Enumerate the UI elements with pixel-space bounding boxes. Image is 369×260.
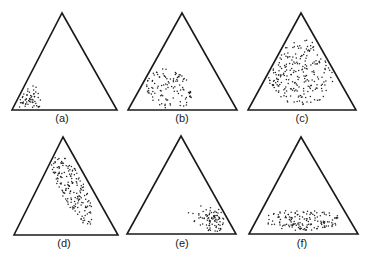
data-point [312,42,314,44]
data-point [75,206,77,208]
data-point [76,192,78,194]
data-point [24,106,26,108]
data-point [72,170,74,172]
data-point [286,47,288,49]
data-point [299,216,301,218]
data-point [70,191,72,193]
data-point [323,222,325,224]
data-point [305,97,307,99]
data-point [323,72,325,74]
panel-label: (c) [296,112,309,124]
data-point [37,97,39,99]
data-point [314,210,316,212]
data-point [289,216,291,218]
panel-e: (e) [127,136,236,249]
data-point [62,190,64,192]
data-point [173,78,175,80]
data-point [304,51,306,53]
data-point [60,176,62,178]
data-point [69,174,71,176]
data-point [200,224,202,226]
data-point [167,99,169,101]
data-point [281,58,283,60]
data-point [54,161,56,163]
data-point [301,96,303,98]
data-point [286,96,288,98]
data-point [62,195,64,197]
data-point [206,216,208,218]
data-point [302,103,304,105]
data-point [186,102,188,104]
data-point [327,221,329,223]
data-point [307,46,309,48]
data-point [314,220,316,222]
data-point [162,73,164,75]
data-point [299,100,301,102]
data-point [323,212,325,214]
data-point [67,167,69,169]
data-point [305,64,307,66]
data-point [178,76,180,78]
data-point [313,49,315,51]
panel-b: (b) [128,13,237,124]
data-point [289,56,291,58]
data-point [53,167,55,169]
data-point [188,212,190,214]
data-point [81,202,83,204]
data-point [296,83,298,85]
data-point [300,95,302,97]
data-point [148,78,150,80]
data-point [167,87,169,89]
data-point [285,66,287,68]
data-point [290,88,292,90]
data-point [176,79,178,81]
data-point [294,216,296,218]
data-point [77,196,79,198]
data-point [273,68,275,70]
data-point [74,197,76,199]
data-point [63,163,65,165]
data-point [272,220,274,222]
data-point [287,52,289,54]
data-point [218,224,220,226]
data-point [310,224,312,226]
data-point [81,216,83,218]
data-point [282,225,284,227]
data-point [284,88,286,90]
data-point [284,53,286,55]
data-point [286,79,288,81]
data-point [317,76,319,78]
data-point [318,99,320,101]
data-point [334,223,336,225]
data-point [296,57,298,59]
data-point [309,218,311,220]
data-point [299,222,301,224]
data-point [304,81,306,83]
data-point [288,214,290,216]
data-point [172,97,174,99]
data-point [38,106,40,108]
data-point [323,96,325,98]
data-point [146,86,148,88]
data-point [278,64,280,66]
data-point [297,223,299,225]
data-point [192,213,194,215]
data-point [74,201,76,203]
data-point [202,211,204,213]
data-point [80,204,82,206]
data-point [25,104,27,106]
data-point [284,75,286,77]
data-point [77,214,79,216]
data-point [82,187,84,189]
data-point [302,102,304,104]
data-point [284,92,286,94]
data-point [57,174,59,176]
data-point [209,214,211,216]
data-point [286,223,288,225]
data-point [74,168,76,170]
data-point [280,74,282,76]
data-point [299,45,301,47]
data-point [158,99,160,101]
data-point [65,188,67,190]
data-point [281,82,283,84]
